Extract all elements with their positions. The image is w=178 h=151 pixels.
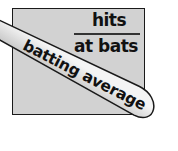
bat-label: batting average	[20, 36, 149, 114]
baseball-bat-icon: batting average	[0, 0, 178, 151]
